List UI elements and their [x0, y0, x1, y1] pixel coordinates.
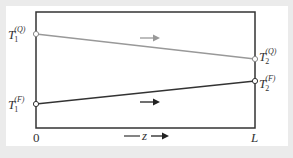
- t1f-point-icon: [33, 101, 38, 106]
- z-arrow-icon: [162, 133, 169, 140]
- t2q-point-icon: [252, 56, 257, 61]
- temperature-diagram: T1(Q) T1(F) T2(Q) T2(F) 0 L z: [0, 0, 293, 158]
- t2f-point-icon: [252, 78, 257, 83]
- t2f-label: T2(F): [259, 74, 276, 93]
- q-flow-arrow-icon: [140, 35, 160, 42]
- t2q-label: T2(Q): [259, 47, 277, 66]
- axis-start-label: 0: [33, 130, 40, 145]
- z-direction-indicator: z: [124, 128, 169, 143]
- t1q-label: T1(Q): [8, 25, 26, 44]
- channel-frame: [36, 12, 255, 128]
- axis-end-label: L: [250, 130, 258, 145]
- t1f-label: T1(F): [8, 95, 25, 114]
- f-temperature-line: [36, 81, 255, 104]
- z-axis-label: z: [141, 128, 147, 143]
- t1q-point-icon: [33, 31, 38, 36]
- f-flow-arrow-icon: [140, 99, 160, 106]
